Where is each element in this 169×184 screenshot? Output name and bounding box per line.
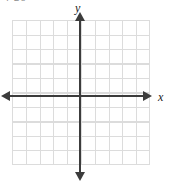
grid-plane (12, 20, 150, 165)
y-axis-line (79, 17, 81, 175)
coordinate-grid-figure: 4 20 y x (0, 0, 169, 184)
grid-bottom-border (12, 164, 150, 165)
x-axis-line (6, 95, 145, 97)
x-axis-right-arrow-icon (143, 91, 152, 101)
truncated-top-text-fragment: 4 20 (4, 0, 64, 3)
x-axis-left-arrow-icon (1, 91, 10, 101)
y-axis-down-arrow-icon (75, 172, 85, 181)
x-axis-label: x (158, 91, 163, 103)
y-axis-label: y (75, 2, 80, 14)
